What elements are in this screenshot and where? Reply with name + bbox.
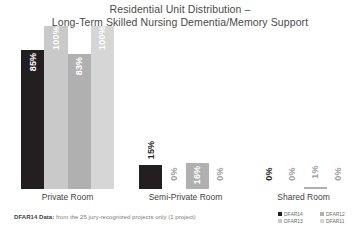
footnote-text: from the 25 jury-recognized projects onl… [54,214,195,220]
legend-item[interactable]: DFAR12 [320,211,358,217]
legend-label: DFAR13 [284,218,303,224]
legend-item[interactable]: DFAR13 [278,218,316,224]
bar-value-label: 0% [287,167,297,180]
bar-slot: 85% [21,26,44,189]
legend-swatch [278,219,282,223]
legend-swatch [278,212,282,216]
legend-label: DFAR14 [284,211,303,217]
bar-group: 85%100%83%100% [21,26,114,189]
bar-slot: 16% [186,26,209,189]
bar-value-label: 1% [310,166,320,179]
legend-swatch [320,219,324,223]
bar-value-label: 85% [28,53,38,72]
bar-value-label: 0% [264,167,274,180]
chart-title: Residential Unit Distribution – Long-Ter… [0,3,360,28]
bar-value-label: 0% [169,167,179,180]
bar-value-label: 100% [51,26,61,50]
bar-slot: 0% [327,26,350,189]
category-label: Semi-Private Room [139,192,232,202]
bar-slot: 0% [162,26,185,189]
footnote-label: DFAR14 Data: [14,214,54,220]
bar[interactable]: 100% [91,26,114,189]
bar-value-label: 0% [333,167,343,180]
legend-swatch [320,212,324,216]
bar-value-label: 0% [215,167,225,180]
bar-slot: 0% [257,26,280,189]
bar[interactable]: 100% [44,26,67,189]
bar[interactable]: 83% [68,54,91,189]
bar-value-label: 16% [192,166,202,185]
bar-slot: 100% [91,26,114,189]
legend-item[interactable]: DFAR11 [320,218,358,224]
chart-title-line-1: Residential Unit Distribution – [0,3,360,16]
bar-slot: 100% [44,26,67,189]
chart-root: Residential Unit Distribution – Long-Ter… [0,0,360,245]
legend-label: DFAR11 [326,218,345,224]
bar[interactable]: 1% [304,187,327,189]
bar-group: 0%0%1%0% [257,26,350,189]
plot-area: 85%100%83%100%15%0%16%0%0%0%1%0% [0,26,360,189]
bar-value-label: 83% [74,56,84,75]
bar-value-label: 100% [97,26,107,50]
bar-slot: 1% [304,26,327,189]
legend-item[interactable]: DFAR14 [278,211,316,217]
bar[interactable]: 85% [21,50,44,189]
bar-value-label: 15% [146,140,156,159]
bar[interactable]: 15% [139,165,162,189]
bar-slot: 83% [68,26,91,189]
bar[interactable]: 16% [186,163,209,189]
bar-slot: 0% [209,26,232,189]
category-label: Shared Room [257,192,350,202]
legend-label: DFAR12 [326,211,345,217]
category-label: Private Room [21,192,114,202]
bar-group: 15%0%16%0% [139,26,232,189]
footnote: DFAR14 Data: from the 25 jury-recognized… [14,214,196,220]
bar-slot: 0% [280,26,303,189]
bar-slot: 15% [139,26,162,189]
legend: DFAR14DFAR12DFAR13DFAR11 [278,211,358,224]
